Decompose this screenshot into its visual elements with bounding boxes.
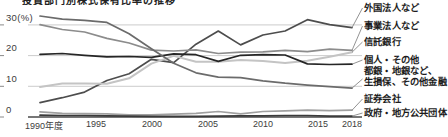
legend-leader-individuals <box>352 60 363 64</box>
y-tick-label-0: 0 <box>6 104 12 115</box>
y-tick-label-10: 10 <box>6 73 17 84</box>
y-tick-label-30: 30(%) <box>6 12 33 23</box>
x-tick-label-2005: 2005 <box>198 119 218 129</box>
legend-leader-banks-insurance <box>352 79 363 88</box>
y-tick-label-20: 20 <box>6 42 17 53</box>
chart-figure: 投資部門別株式保有比率の推移 30(%) 20 10 0 1990年度 1995… <box>0 0 448 137</box>
legend-label-trust-banks: 信託銀行 <box>364 37 401 48</box>
series-line-securities <box>40 110 352 115</box>
x-tick-label-2015: 2015 <box>308 119 328 129</box>
series-line-individuals <box>40 54 352 65</box>
x-tick-label-2010: 2010 <box>253 119 273 129</box>
legend-label-individuals: 個人・その他 <box>364 55 419 66</box>
series-line-trust-banks <box>40 52 352 87</box>
x-tick-label-2018: 2018 <box>342 119 362 129</box>
series-line-government <box>40 115 352 116</box>
legend-leader-government <box>352 113 363 116</box>
legend-label-banks-insurance: 都銀・地銀など、 生損保、その他金融 <box>364 66 447 87</box>
x-tick-label-2000: 2000 <box>142 119 162 129</box>
legend-label-banks-insurance-line1: 都銀・地銀など、 <box>364 66 438 76</box>
legend-label-government: 政府・地方公共団体 <box>364 108 447 119</box>
legend-leader-securities <box>352 99 363 110</box>
legend-label-foreign: 外国法人など <box>364 3 419 14</box>
legend-label-business: 事業法人など <box>364 21 419 32</box>
legend-label-banks-insurance-line2: 生損保、その他金融 <box>364 77 447 87</box>
series-line-business <box>40 25 352 54</box>
x-tick-label-1995: 1995 <box>86 119 106 129</box>
x-tick-label-1990: 1990年度 <box>25 119 63 132</box>
legend-label-securities: 証券会社 <box>364 94 401 105</box>
